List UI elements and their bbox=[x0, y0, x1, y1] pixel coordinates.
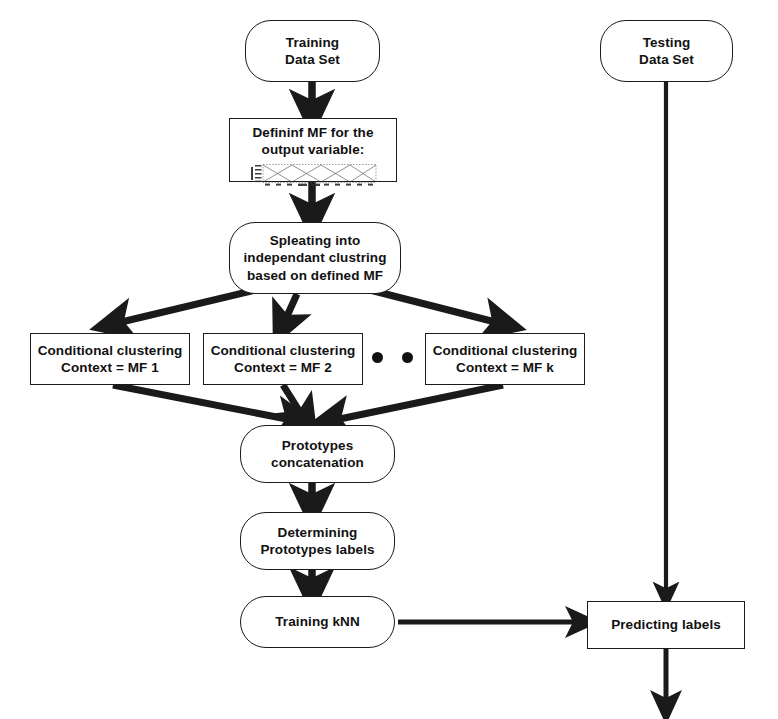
node-label-line: based on defined MF bbox=[247, 267, 383, 284]
edge-splitting-to-mfk bbox=[370, 290, 503, 324]
node-label-line: Conditional clustering bbox=[211, 342, 356, 359]
node-label-line: Training bbox=[286, 34, 339, 51]
node-label-line: Spleating into bbox=[270, 232, 361, 249]
node-label-line: Context = MF 2 bbox=[234, 359, 332, 376]
node-training-knn[interactable]: Training kNN bbox=[240, 596, 395, 648]
node-training-data-set[interactable]: Training Data Set bbox=[245, 20, 380, 82]
node-predicting-labels[interactable]: Predicting labels bbox=[587, 601, 745, 649]
node-label-line: Prototypes labels bbox=[260, 541, 374, 558]
node-label-line: Testing bbox=[643, 34, 691, 51]
node-label-line: Predicting labels bbox=[611, 616, 721, 633]
edge-mfk-to-concat bbox=[330, 385, 503, 421]
node-conditional-clustering-mfk[interactable]: Conditional clustering Context = MF k bbox=[425, 333, 585, 385]
node-label-line: output variable: bbox=[262, 141, 365, 158]
node-label-line: Context = MF k bbox=[456, 359, 554, 376]
node-determining-prototypes-labels[interactable]: Determining Prototypes labels bbox=[240, 512, 395, 570]
node-label-line: Prototypes bbox=[282, 437, 354, 454]
edge-splitting-to-mf1 bbox=[113, 290, 256, 324]
node-prototypes-concatenation[interactable]: Prototypes concatenation bbox=[240, 425, 395, 483]
node-label-line: Determining bbox=[278, 524, 358, 541]
node-label-line: Data Set bbox=[639, 51, 694, 68]
edge-mf2-to-concat bbox=[283, 385, 305, 420]
node-splitting[interactable]: Spleating into independant clustring bas… bbox=[229, 222, 401, 294]
node-label-line: Conditional clustering bbox=[38, 342, 183, 359]
flowchart-canvas: Training Data Set Defininf MF for the ou… bbox=[0, 0, 778, 719]
node-label-line: Conditional clustering bbox=[433, 342, 578, 359]
node-label-line: concatenation bbox=[271, 454, 364, 471]
edge-mf1-to-concat bbox=[113, 385, 297, 421]
node-label-line: independant clustring bbox=[243, 249, 386, 266]
node-label-line: Defininf MF for the bbox=[252, 124, 373, 141]
node-defining-mf[interactable]: Defininf MF for the output variable: bbox=[229, 118, 397, 182]
node-label-line: Data Set bbox=[285, 51, 340, 68]
node-label-line: Context = MF 1 bbox=[61, 359, 159, 376]
node-label-line: Training kNN bbox=[275, 613, 359, 630]
node-testing-data-set[interactable]: Testing Data Set bbox=[600, 20, 733, 82]
node-conditional-clustering-mf2[interactable]: Conditional clustering Context = MF 2 bbox=[203, 333, 363, 385]
membership-function-plot bbox=[246, 162, 380, 188]
node-conditional-clustering-mf1[interactable]: Conditional clustering Context = MF 1 bbox=[30, 333, 190, 385]
ellipsis-dot-icon bbox=[402, 352, 413, 363]
ellipsis-dot-icon bbox=[372, 352, 383, 363]
edge-splitting-to-mf2 bbox=[283, 294, 297, 325]
